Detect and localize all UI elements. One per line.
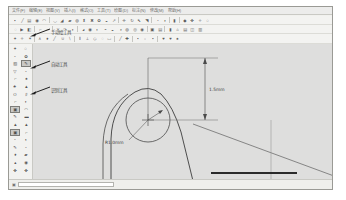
- ortho-button[interactable]: ▥: [197, 26, 203, 32]
- undo-button[interactable]: ⌐: [37, 26, 43, 32]
- leader-tool[interactable]: ╱: [52, 36, 58, 42]
- lt-corner-tool[interactable]: ⌐: [10, 75, 20, 82]
- linetype-button[interactable]: ▤: [157, 26, 163, 32]
- subtract-tool[interactable]: ∖: [67, 36, 73, 42]
- zoom-window-tool[interactable]: ◕: [80, 26, 86, 32]
- zoom-out-tool[interactable]: ◒: [110, 26, 116, 32]
- diamond-tool[interactable]: ◇: [92, 36, 98, 42]
- lt-auto-tool[interactable]: ▣: [10, 129, 20, 136]
- region-tool[interactable]: ○: [204, 17, 210, 23]
- menu-dimension[interactable]: 标注(N): [132, 8, 146, 13]
- extend-tool[interactable]: ↗: [111, 17, 117, 23]
- rotate-tool[interactable]: ↻: [129, 17, 135, 23]
- lt-point-tool[interactable]: ♦: [10, 151, 20, 158]
- chamfer-tool[interactable]: ∧: [37, 36, 43, 42]
- lt-arc-tool[interactable]: ◔: [10, 53, 20, 60]
- move-tool[interactable]: ✛: [121, 17, 127, 23]
- pan-tool[interactable]: ◑: [117, 26, 123, 32]
- lt-pattern-tool[interactable]: ✿: [21, 53, 31, 60]
- hatch-tool[interactable]: ✤: [190, 17, 196, 23]
- parallel-tool[interactable]: ⫴: [77, 36, 83, 42]
- regen-tool[interactable]: ◎: [132, 26, 138, 32]
- lt-draw-tool[interactable]: ✎: [10, 144, 20, 151]
- menu-insert[interactable]: 插入(I): [64, 8, 76, 13]
- menu-file[interactable]: 文件(F): [12, 8, 25, 13]
- lt-snowflake-tool[interactable]: ✤: [21, 167, 31, 174]
- save-file-button[interactable]: ◧: [27, 26, 33, 32]
- layer-manager-button[interactable]: ▣: [150, 26, 156, 32]
- lt-sketch-tool[interactable]: ✎: [21, 60, 31, 67]
- menu-modify[interactable]: 修改(M): [150, 8, 164, 13]
- lt-manual-tool[interactable]: ▣: [10, 106, 20, 113]
- scale-tool[interactable]: ◥: [144, 17, 150, 23]
- vertex-tool[interactable]: ▫: [142, 36, 148, 42]
- redo-button[interactable]: ¬: [45, 26, 51, 32]
- lt-symbol-tool[interactable]: ♠: [21, 75, 31, 82]
- menu-help[interactable]: 帮助(H): [168, 8, 182, 13]
- add-node-tool[interactable]: ✚: [124, 36, 130, 42]
- offset-tool[interactable]: ◑: [161, 17, 167, 23]
- lt-angle-tool[interactable]: ⌐: [21, 129, 31, 136]
- menu-view[interactable]: 视图(V): [46, 8, 59, 13]
- pattern-tool[interactable]: ✿: [96, 17, 102, 23]
- menu-tools[interactable]: 工具(T): [97, 8, 110, 13]
- open-file-button[interactable]: ▶: [19, 26, 25, 32]
- node-tool[interactable]: ▪: [135, 36, 141, 42]
- box-tool[interactable]: ▭: [107, 36, 113, 42]
- copy-button[interactable]: ↷: [62, 26, 68, 32]
- lt-fillet2-tool[interactable]: ◔: [21, 144, 31, 151]
- spline-tool[interactable]: ◡: [52, 17, 58, 23]
- dim-aligned-tool[interactable]: ✧: [19, 36, 25, 42]
- lt-hatch-tool[interactable]: ▨: [10, 60, 20, 67]
- fillet-tool[interactable]: ♦: [45, 36, 51, 42]
- menu-edit[interactable]: 编辑(E): [29, 8, 42, 13]
- menu-draw[interactable]: 绘图(D): [114, 8, 128, 13]
- snap-button[interactable]: ◫: [190, 26, 196, 32]
- gradient-tool[interactable]: ✧: [197, 17, 203, 23]
- handle-tool[interactable]: ▪: [150, 36, 156, 42]
- lt-line-tool[interactable]: ▬: [21, 113, 31, 120]
- block-tool[interactable]: ◆: [182, 17, 188, 23]
- trim-tool[interactable]: ◔: [154, 17, 160, 23]
- properties-button[interactable]: ▮: [167, 26, 173, 32]
- lt-circle-tool[interactable]: ○: [21, 45, 31, 52]
- paste-button[interactable]: ◗: [70, 26, 76, 32]
- zoom-extents-tool[interactable]: ◉: [88, 26, 94, 32]
- lt-node-tool[interactable]: ♣: [10, 83, 20, 90]
- zoom-in-tool[interactable]: ◓: [102, 26, 108, 32]
- zoom-previous-tool[interactable]: ◐: [95, 26, 101, 32]
- array-tool[interactable]: ▮: [172, 17, 178, 23]
- lt-offset-tool[interactable]: ◗: [21, 98, 31, 105]
- drawing-canvas[interactable]: 1.5mm R1.0mm: [9, 44, 332, 190]
- polyline-tool[interactable]: ▰: [67, 17, 73, 23]
- lt-grid-tool[interactable]: ♯: [21, 91, 31, 98]
- perpendicular-tool[interactable]: ⟂: [85, 36, 91, 42]
- favorite-tool[interactable]: ♥: [160, 36, 166, 42]
- center-mark-tool[interactable]: ◌: [99, 36, 105, 42]
- menu-format[interactable]: 格式(O): [80, 8, 94, 13]
- mirror-tool[interactable]: ⬉: [136, 17, 142, 23]
- rectangle-tool[interactable]: ▤: [27, 17, 33, 23]
- lt-quarter-tool[interactable]: ◔: [10, 136, 20, 143]
- lt-pen-tool[interactable]: ✎: [10, 113, 20, 120]
- arc-tool[interactable]: ◠: [42, 17, 48, 23]
- lt-sector-tool[interactable]: ◔: [21, 68, 31, 75]
- vertical-line-tool[interactable]: ⬍: [82, 17, 88, 23]
- lt-target-tool[interactable]: ◉: [21, 159, 31, 166]
- symbol-tool[interactable]: ♠: [175, 36, 181, 42]
- new-file-button[interactable]: ◌: [12, 26, 18, 32]
- half-fill-tool[interactable]: ◒: [104, 17, 110, 23]
- lt-select-tool[interactable]: ✦: [10, 45, 20, 52]
- lt-ellipse-tool[interactable]: O: [10, 91, 20, 98]
- drawing-viewport[interactable]: 1.5mm R1.0mm: [33, 44, 332, 181]
- lt-pyramid-tool[interactable]: ▲: [21, 121, 31, 128]
- lt-triangle-tool[interactable]: ▲: [21, 83, 31, 90]
- lt-star-tool[interactable]: ✤: [10, 167, 20, 174]
- lt-rect2-tool[interactable]: ▰: [21, 151, 31, 158]
- line-tool[interactable]: ╱: [19, 17, 25, 23]
- grid-button[interactable]: ▤: [182, 26, 188, 32]
- union-tool[interactable]: ∪: [59, 36, 65, 42]
- command-input[interactable]: [18, 182, 114, 187]
- redraw-tool[interactable]: ◉: [139, 26, 145, 32]
- dim-linear-tool[interactable]: ✦: [12, 36, 18, 42]
